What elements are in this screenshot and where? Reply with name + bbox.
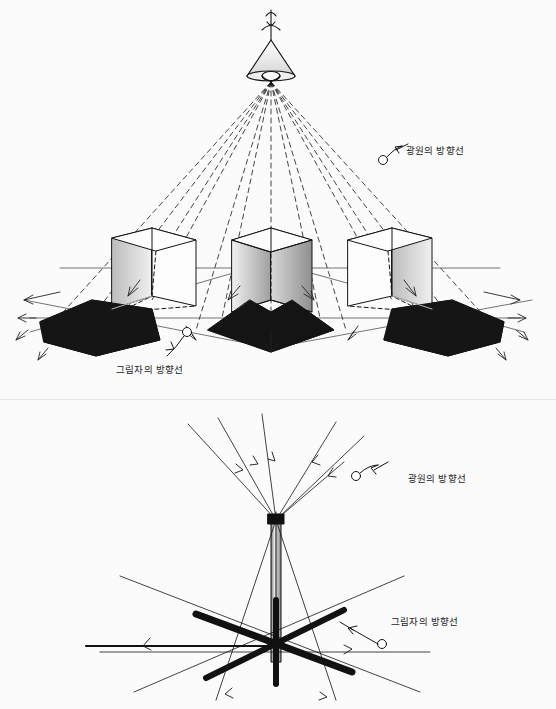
diagram-page: 광원의 방향선 그림자의 방향선 (0, 0, 556, 709)
figure-bottom-svg (0, 400, 556, 709)
figure-top-svg (0, 0, 556, 400)
shadow-cross (196, 600, 352, 684)
ceiling-lamp (262, 10, 280, 40)
cube-center (232, 228, 312, 312)
pole-top-node (268, 514, 284, 524)
label-light-direction-bottom: 광원의 방향선 (408, 471, 466, 485)
base-direction-arrows (143, 638, 352, 700)
callout-light-direction-top (379, 144, 409, 165)
light-convergence-lines (188, 414, 364, 520)
callout-light-direction-bottom (352, 462, 389, 481)
base-projection-lines (100, 520, 430, 700)
label-shadow-direction-bottom: 그림자의 방향선 (391, 614, 458, 628)
cube-right-shadow-face (384, 296, 504, 356)
label-light-direction-top: 광원의 방향선 (406, 143, 464, 157)
cube-left (112, 228, 196, 312)
figure-top: 광원의 방향선 그림자의 방향선 (0, 0, 556, 400)
callout-shadow-direction-top (166, 328, 192, 357)
callout-shadow-direction-bottom (340, 622, 387, 649)
lamp-shade (247, 40, 295, 81)
figure-bottom: 광원의 방향선 그림자의 방향선 (0, 400, 556, 709)
cube-right (348, 228, 432, 312)
cube-left-shadow-face (40, 296, 160, 356)
light-ray-arrows (235, 452, 336, 477)
label-shadow-direction-top: 그림자의 방향선 (116, 362, 183, 376)
